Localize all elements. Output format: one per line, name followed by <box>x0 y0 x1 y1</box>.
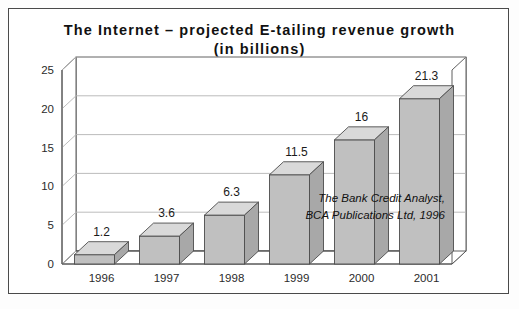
bar-1998[interactable] <box>205 202 259 264</box>
x-axis-category-label-1997: 1997 <box>154 272 180 284</box>
source-annotation-line1: The Bank Credit Analyst, <box>318 192 445 204</box>
y-axis-tick-label: 10 <box>41 180 54 192</box>
y-axis-tick-label: 0 <box>48 258 54 270</box>
bar-2001[interactable] <box>400 86 454 264</box>
y-axis-tick-label: 25 <box>41 64 54 76</box>
chart-figure: The Internet – projected E-tailing reven… <box>0 0 519 309</box>
bar-value-label-1996: 1.2 <box>93 225 110 239</box>
x-axis-category-label-2001: 2001 <box>414 272 440 284</box>
bar-front-face[interactable] <box>140 236 180 264</box>
x-axis-category-label-1999: 1999 <box>284 272 310 284</box>
bar-value-label-2000: 16 <box>355 110 369 124</box>
bar-front-face[interactable] <box>270 175 310 264</box>
y-axis-tick-label: 5 <box>48 219 54 231</box>
bar-front-face[interactable] <box>75 255 115 264</box>
y-axis-tick-label: 20 <box>41 103 54 115</box>
bar-value-label-1998: 6.3 <box>223 185 240 199</box>
bar-chart: 05101520251.219963.619976.3199811.519991… <box>0 52 519 302</box>
bar-side-face[interactable] <box>440 86 454 264</box>
bar-front-face[interactable] <box>400 99 440 264</box>
bar-1997[interactable] <box>140 223 194 264</box>
bar-value-label-1997: 3.6 <box>158 206 175 220</box>
plot-left-wall <box>62 57 76 264</box>
plot-right-wall <box>452 57 466 264</box>
bar-value-label-1999: 11.5 <box>285 145 308 159</box>
x-axis-category-label-1998: 1998 <box>219 272 245 284</box>
source-annotation-line2: BCA Publications Ltd, 1996 <box>305 209 445 221</box>
y-axis-tick-label: 15 <box>41 142 54 154</box>
x-axis-category-label-2000: 2000 <box>349 272 375 284</box>
x-axis-category-label-1996: 1996 <box>89 272 115 284</box>
bar-front-face[interactable] <box>205 215 245 264</box>
bar-value-label-2001: 21.3 <box>415 69 439 83</box>
